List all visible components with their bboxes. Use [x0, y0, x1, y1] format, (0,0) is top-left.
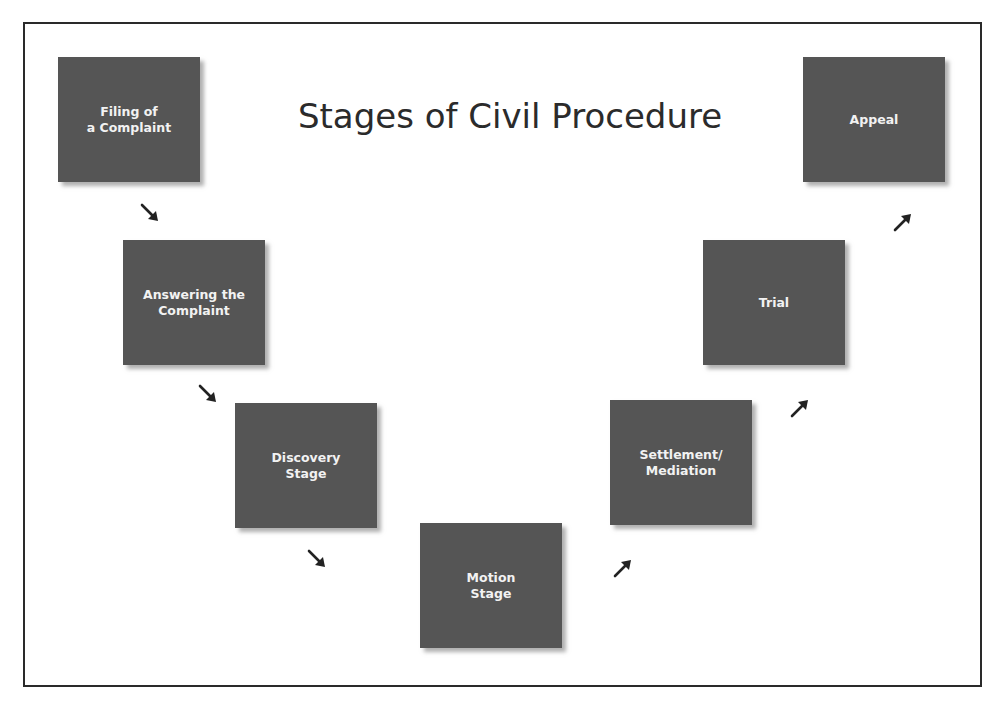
stage-discovery: Discovery Stage: [235, 403, 377, 528]
arrow-up-right-icon: [892, 211, 914, 233]
stage-trial: Trial: [703, 240, 845, 365]
arrow-down-right-icon: [139, 202, 161, 224]
stage-filing-of-complaint: Filing of a Complaint: [58, 57, 200, 182]
stage-answering-complaint: Answering the Complaint: [123, 240, 265, 365]
arrow-down-right-icon: [197, 383, 219, 405]
arrow-up-right-icon: [789, 397, 811, 419]
arrow-up-right-icon: [612, 557, 634, 579]
stage-appeal: Appeal: [803, 57, 945, 182]
diagram-title: Stages of Civil Procedure: [270, 96, 750, 136]
stage-settlement-mediation: Settlement/ Mediation: [610, 400, 752, 525]
stage-motion: Motion Stage: [420, 523, 562, 648]
arrow-down-right-icon: [306, 548, 328, 570]
